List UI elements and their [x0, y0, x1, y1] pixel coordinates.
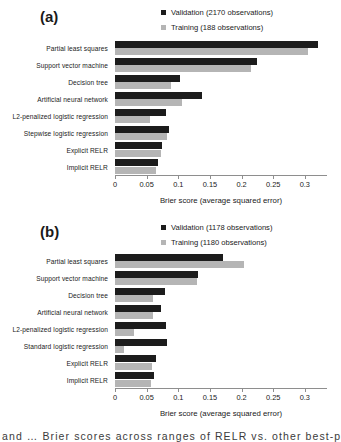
- validation-bar: [115, 254, 223, 261]
- training-bar: [115, 312, 153, 319]
- training-bar: [115, 48, 308, 55]
- x-tick: [242, 389, 243, 392]
- validation-swatch-icon: [161, 225, 166, 230]
- x-tick: [305, 389, 306, 392]
- legend-label-validation: Validation (1178 observations): [171, 223, 272, 232]
- x-tick-label: 0.15: [203, 393, 217, 402]
- x-tick: [147, 176, 148, 179]
- x-tick-label: 0.25: [266, 180, 280, 189]
- x-tick-label: 0.2: [236, 180, 246, 189]
- validation-bar: [115, 305, 161, 312]
- x-tick: [115, 176, 116, 179]
- panel-b-plot-area: Partial least squaresSupport vector mach…: [0, 253, 341, 388]
- x-tick-label: 0.1: [173, 180, 183, 189]
- validation-bar: [115, 109, 166, 116]
- x-tick: [242, 176, 243, 179]
- x-tick: [305, 176, 306, 179]
- panel-a-category-labels: Partial least squaresSupport vector mach…: [0, 40, 111, 175]
- panel-b-category-labels: Partial least squaresSupport vector mach…: [0, 253, 111, 388]
- x-tick: [115, 389, 116, 392]
- validation-bar: [115, 322, 166, 329]
- training-bar: [115, 167, 156, 174]
- legend-label-validation: Validation (2170 observations): [171, 8, 273, 17]
- x-tick: [178, 389, 179, 392]
- x-tick: [178, 176, 179, 179]
- training-swatch-icon: [161, 25, 166, 30]
- x-tick-label: 0.15: [203, 180, 217, 189]
- validation-bar: [115, 92, 202, 99]
- category-label: Decision tree: [68, 79, 108, 86]
- category-label: Standard logistic regression: [24, 342, 108, 349]
- training-bar: [115, 65, 251, 72]
- x-tick-label: 0.1: [173, 393, 183, 402]
- x-tick-label: 0.25: [266, 393, 280, 402]
- x-tick-label: 0.2: [236, 393, 246, 402]
- validation-bar: [115, 41, 318, 48]
- category-label: Support vector machine: [36, 275, 108, 282]
- x-tick: [210, 176, 211, 179]
- x-tick-label: 0.05: [139, 393, 153, 402]
- validation-bar: [115, 126, 169, 133]
- legend-item-training: Training (1180 observations): [161, 236, 337, 249]
- x-tick: [273, 176, 274, 179]
- validation-swatch-icon: [161, 10, 166, 15]
- legend-item-training: Training (188 observations): [161, 21, 337, 34]
- legend-label-training: Training (188 observations): [171, 23, 263, 32]
- category-label: Partial least squares: [46, 258, 108, 265]
- validation-bar: [115, 339, 167, 346]
- training-bar: [115, 295, 153, 302]
- legend-item-validation: Validation (1178 observations): [161, 221, 337, 234]
- x-tick-label: 0: [113, 393, 117, 402]
- panel-b-x-axis-title: Brier score (average squared error): [115, 409, 327, 418]
- x-tick: [210, 389, 211, 392]
- category-label: L2-penalized logistic regression: [12, 112, 108, 119]
- training-bar: [115, 82, 171, 89]
- training-bar: [115, 99, 182, 106]
- training-bar: [115, 278, 197, 285]
- panel-b-legend: Validation (1178 observations) Training …: [161, 221, 337, 251]
- legend-label-training: Training (1180 observations): [171, 238, 267, 247]
- panel-b-bars: [115, 253, 327, 388]
- panel-a-label: (a): [40, 8, 58, 25]
- legend-item-validation: Validation (2170 observations): [161, 6, 337, 19]
- x-tick: [147, 389, 148, 392]
- category-label: Implicit RELR: [67, 163, 108, 170]
- figure-caption: and … Brier scores across ranges of RELR…: [0, 432, 341, 442]
- training-bar: [115, 329, 134, 336]
- x-tick-label: 0.3: [300, 180, 310, 189]
- panel-a-x-axis-title: Brier score (average squared error): [115, 196, 327, 205]
- validation-bar: [115, 288, 165, 295]
- panel-b-x-ticks: 00.050.10.150.20.250.3: [115, 389, 327, 405]
- category-label: Artificial neural network: [37, 309, 108, 316]
- x-tick-label: 0.05: [139, 180, 153, 189]
- validation-bar: [115, 355, 156, 362]
- category-label: Explicit RELR: [66, 146, 108, 153]
- training-bar: [115, 363, 152, 370]
- category-label: Artificial neural network: [37, 96, 108, 103]
- category-label: Explicit RELR: [66, 359, 108, 366]
- category-label: L2-penalized logistic regression: [12, 325, 108, 332]
- validation-bar: [115, 372, 154, 379]
- training-bar: [115, 380, 151, 387]
- training-bar: [115, 150, 161, 157]
- category-label: Partial least squares: [46, 45, 108, 52]
- training-bar: [115, 133, 167, 140]
- x-tick-label: 0.3: [300, 393, 310, 402]
- validation-bar: [115, 159, 158, 166]
- validation-bar: [115, 75, 180, 82]
- x-tick: [273, 389, 274, 392]
- category-label: Decision tree: [68, 292, 108, 299]
- panel-a-bars: [115, 40, 327, 175]
- training-swatch-icon: [161, 240, 166, 245]
- validation-bar: [115, 58, 257, 65]
- training-bar: [115, 116, 150, 123]
- panel-a-plot-area: Partial least squaresSupport vector mach…: [0, 40, 341, 175]
- validation-bar: [115, 142, 162, 149]
- brier-score-figure: (a) Validation (2170 observations) Train…: [0, 0, 341, 442]
- validation-bar: [115, 271, 198, 278]
- panel-a-x-ticks: 00.050.10.150.20.250.3: [115, 176, 327, 192]
- training-bar: [115, 261, 244, 268]
- category-label: Support vector machine: [36, 62, 108, 69]
- category-label: Implicit RELR: [67, 376, 108, 383]
- category-label: Stepwise logistic regression: [24, 129, 108, 136]
